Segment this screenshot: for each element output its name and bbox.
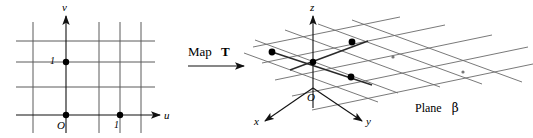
- uv-v-unit-point: [63, 59, 69, 65]
- plane-origin-label: O: [307, 92, 315, 103]
- plane-beta-grid: [244, 17, 533, 110]
- plane-image-point-left: [269, 49, 276, 56]
- plane-image-origin-point: [310, 59, 316, 65]
- z-axis-label: z: [310, 2, 314, 13]
- map-label-name: T: [221, 44, 230, 59]
- x-axis: [265, 88, 313, 121]
- plane-image-point-upper: [349, 39, 356, 46]
- plane-grid-line-b: [275, 35, 492, 80]
- plane-beta-label: Plane β: [415, 102, 459, 114]
- plane-grid-line-b: [253, 17, 400, 47]
- plane-image-point-lower: [348, 74, 355, 81]
- u-axis-label: u: [164, 110, 170, 121]
- uv-u-unit-point: [117, 112, 123, 118]
- y-axis: [313, 88, 362, 121]
- map-label-prefix: Map: [188, 44, 212, 59]
- y-axis-label: y: [366, 116, 371, 127]
- figure-container: v u O 1 1 Map T z x y O Plane β: [0, 0, 533, 138]
- v-tick-one-label: 1: [50, 56, 55, 66]
- x-axis-label: x: [254, 116, 259, 127]
- plane-grid-line-a: [285, 30, 440, 87]
- u-tick-one-label: 1: [114, 120, 119, 130]
- uv-origin-point: [63, 112, 69, 118]
- plane-image-v-direction: [290, 41, 368, 70]
- plane-label-prefix: Plane: [415, 101, 442, 115]
- plane-grid-node-mid: [391, 55, 394, 58]
- map-label: Map T: [188, 45, 230, 58]
- figure-canvas: [0, 0, 533, 138]
- plane-grid-line-a: [255, 40, 398, 93]
- uv-origin-label: O: [57, 120, 65, 131]
- plane-grid-line-a: [352, 20, 522, 82]
- v-axis-label: v: [62, 2, 67, 13]
- plane-label-symbol: β: [452, 101, 459, 115]
- uv-grid-lines: [16, 22, 155, 133]
- plane-grid-node-far: [461, 70, 464, 73]
